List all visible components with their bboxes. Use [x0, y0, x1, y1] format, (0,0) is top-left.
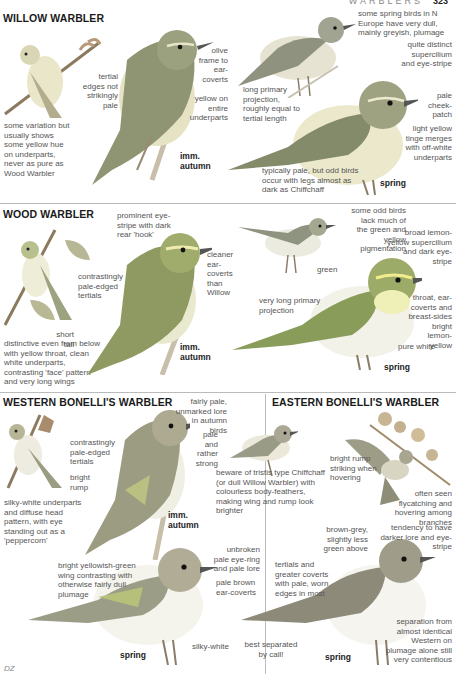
age-label: spring [380, 178, 406, 188]
page-number: 323 [433, 0, 448, 6]
annotation: bright rump striking when hovering [330, 454, 380, 483]
annotation: often seen flycatching and hovering amon… [376, 489, 452, 527]
annotation: some variation but usually shows some ye… [4, 121, 74, 178]
age-label: spring [384, 362, 410, 372]
western-bonelli-perched-illustration [0, 410, 70, 490]
annotation: olive frame to ear-coverts [194, 46, 228, 84]
annotation: long primary projection, roughly equal t… [243, 85, 303, 123]
annotation: yellow on entire underparts [186, 94, 228, 123]
section-title: WARBLERS [349, 0, 423, 6]
annotation: some spring birds in N Europe have very … [358, 9, 456, 38]
page-header: WARBLERS323 [349, 0, 448, 6]
age-label: spring [325, 652, 351, 662]
annotation: separation from almost identical Western… [380, 617, 452, 665]
annotation: very long primary projection [259, 296, 329, 315]
annotation: prominent eye-stripe with dark rear 'hoo… [117, 211, 187, 240]
species-title-wood: WOOD WARBLER [3, 208, 94, 220]
annotation: tertial edges not strikingly pale [76, 72, 118, 110]
annotation: contrastingly pale-edged tertials [78, 272, 122, 301]
annotation: tendency to have darker lore and eye-str… [378, 523, 452, 552]
age-label: spring [120, 650, 146, 660]
annotation: contrastingly pale-edged tertials [70, 438, 112, 467]
annotation: bright yellowish-green wing contrasting … [58, 561, 138, 599]
annotation: typically pale, but odd birds occur with… [262, 166, 362, 195]
section-divider [0, 392, 456, 393]
age-label: imm. autumn [168, 510, 208, 530]
annotation: pale and rather strong [190, 430, 218, 468]
annotation: silky-white [192, 642, 229, 652]
annotation: light yellow tinge merges with off-white… [400, 124, 452, 162]
annotation: beware of tristis type Chiffchaff (or du… [216, 468, 326, 516]
annotation: brown-grey, slightly less green above [312, 525, 368, 554]
artist-signature: DZ [4, 664, 15, 673]
annotation: pale cheek-patch [414, 91, 452, 120]
annotation: tertials and greater coverts with pale, … [275, 560, 341, 598]
section-divider [0, 203, 456, 204]
age-label: imm. autumn [180, 342, 220, 362]
annotation: bright rump [70, 473, 96, 492]
annotation: pure white [398, 342, 435, 352]
age-label: imm. autumn [180, 151, 220, 171]
